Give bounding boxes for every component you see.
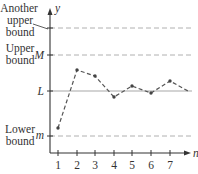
x-axis-arrow-icon	[184, 151, 191, 156]
x-tick-label-4: 4	[111, 159, 117, 171]
sequence-line	[58, 70, 188, 128]
M-label: M	[33, 49, 45, 61]
upper-bound-label-2: bound	[6, 54, 35, 66]
lower-bound-label-1: Lower	[5, 123, 35, 135]
L-label: L	[37, 85, 44, 97]
x-tick-label-1: 1	[55, 159, 61, 171]
x-tick-label-3: 3	[92, 159, 98, 171]
bounded-sequence-chart: 1 2 3 4 5 6 7 y n M L m Another upper bo…	[0, 0, 198, 174]
m-label: m	[36, 129, 44, 141]
x-axis-label: n	[193, 147, 198, 159]
y-axis-arrow-icon	[48, 8, 53, 15]
x-tick-label-6: 6	[148, 159, 154, 171]
x-tick-label-5: 5	[129, 159, 135, 171]
another-upper-label-1: Another	[0, 2, 38, 14]
another-upper-label-3: bound	[6, 26, 35, 38]
lower-bound-label-2: bound	[6, 135, 35, 147]
y-axis-label: y	[54, 2, 61, 15]
another-upper-pointer	[33, 24, 48, 29]
sequence-points	[56, 68, 171, 129]
x-tick-label-7: 7	[167, 159, 173, 171]
x-tick-label-2: 2	[74, 159, 80, 171]
